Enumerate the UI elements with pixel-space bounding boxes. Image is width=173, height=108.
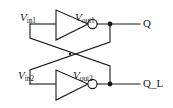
circuit-figure: Vin1 Vout1 Vin2 Vout2 Q Q_L — [0, 0, 173, 108]
port-label-q: Q — [143, 18, 151, 29]
label-vout1-symbol: V — [75, 11, 82, 23]
label-vin1: Vin1 — [20, 8, 36, 24]
port-label-q-l: Q_L — [143, 78, 163, 89]
label-vin1-symbol: V — [20, 11, 27, 23]
label-vout2: Vout2 — [73, 66, 93, 82]
label-vin1-subscript: in1 — [27, 16, 36, 25]
label-vout2-symbol: V — [73, 69, 80, 81]
wire-crossing-point — [69, 53, 71, 55]
label-vout2-subscript: out2 — [80, 74, 93, 83]
label-vout1: Vout1 — [75, 8, 95, 24]
label-vin2-symbol: V — [18, 69, 25, 81]
label-vin2-subscript: in2 — [25, 74, 34, 83]
label-vout1-subscript: out1 — [82, 16, 95, 25]
label-vin2: Vin2 — [18, 66, 34, 82]
